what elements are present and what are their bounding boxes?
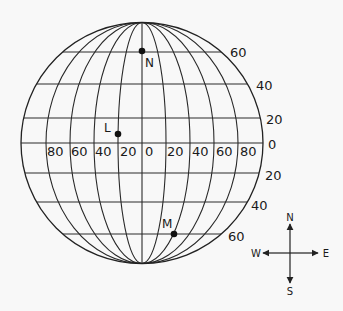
longitude-label: 80 [240, 144, 257, 159]
point-m-dot [171, 231, 178, 238]
latitude-label: 20 [266, 112, 283, 127]
compass-label-west: W [251, 248, 261, 259]
latitude-label: 0 [268, 137, 276, 152]
compass-label-north: N [286, 212, 293, 223]
point-n-label: N [145, 56, 154, 70]
compass-label-south: S [287, 286, 293, 297]
longitude-label: 20 [120, 144, 137, 159]
longitude-label: 40 [192, 144, 209, 159]
longitude-label: 40 [95, 144, 112, 159]
longitude-label: 0 [145, 144, 153, 159]
point-l-dot [115, 131, 122, 138]
compass-label-east: E [323, 248, 329, 259]
latitude-label: 60 [230, 45, 247, 60]
compass-rose: N S W E [251, 212, 329, 297]
globe-diagram: 6040200204060 80604020020406080 NLM N S … [0, 0, 343, 311]
point-n-dot [139, 48, 146, 55]
longitude-label: 80 [47, 144, 64, 159]
longitude-label: 60 [216, 144, 233, 159]
point-l-label: L [104, 121, 111, 135]
latitude-label: 40 [251, 198, 268, 213]
latitude-label: 60 [228, 229, 245, 244]
longitude-labels: 80604020020406080 [47, 144, 257, 159]
point-m-label: M [162, 217, 172, 231]
latitude-label: 20 [265, 168, 282, 183]
latitude-label: 40 [256, 78, 273, 93]
longitude-label: 20 [167, 144, 184, 159]
longitude-label: 60 [71, 144, 88, 159]
